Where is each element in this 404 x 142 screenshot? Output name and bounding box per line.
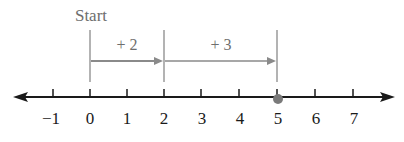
jump-plus-2: + 2 [91,36,163,65]
tick-label: 1 [123,109,132,128]
tick-label: 7 [350,109,359,128]
tick-labels: −1 0 1 2 3 4 5 6 7 [42,109,359,128]
jump-label: + 2 [116,36,137,53]
ticks [53,89,353,97]
jump-label: + 3 [210,36,231,53]
tick-label: 2 [160,109,169,128]
arrowhead-icon [154,57,163,65]
tick-label: 0 [86,109,95,128]
tick-label: −1 [42,109,60,128]
tick-label: 3 [198,109,207,128]
number-line-axis [13,92,395,102]
tick-label: 6 [312,109,321,128]
start-label: Start [75,6,107,25]
jump-plus-3: + 3 [165,36,276,65]
number-line-diagram: Start + 2 + 3 −1 0 1 2 3 [0,0,404,142]
tick-label: 5 [274,109,283,128]
arrowhead-icon [267,57,276,65]
result-point [273,94,283,104]
tick-label: 4 [236,109,245,128]
